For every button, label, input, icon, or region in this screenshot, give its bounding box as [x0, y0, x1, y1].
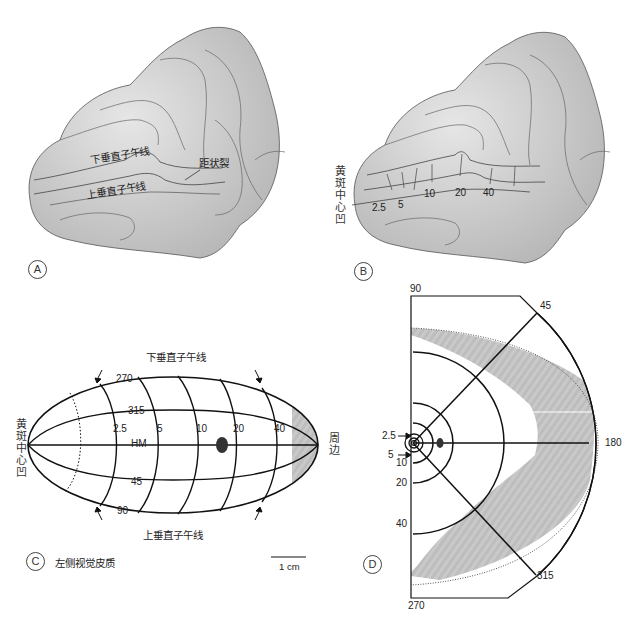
angle-label-315: 315 [537, 570, 554, 581]
title-lower-vertical-meridian: 下垂直子午线 [146, 349, 206, 364]
meridian-label-hm: HM [131, 438, 147, 449]
meridian-label-45: 45 [131, 476, 142, 487]
ecc-label-d-10: 10 [396, 457, 407, 468]
title-upper-vertical-meridian: 上垂直子午线 [143, 527, 203, 542]
ecc-label-c-2.5: 2.5 [113, 423, 127, 434]
brain-illustration-a [29, 27, 285, 258]
meridian-label-90: 90 [117, 505, 128, 516]
label-fovea-b: 黄斑中心凹 [331, 165, 347, 225]
visual-field-map-d [398, 296, 598, 598]
label-periphery: 周边 [325, 432, 341, 456]
ecc-label-d-40: 40 [396, 518, 407, 529]
ecc-label-c-5: 5 [157, 423, 163, 434]
ecc-label-d-5: 5 [388, 449, 394, 460]
angle-label-90: 90 [410, 283, 421, 294]
label-calcarine-fissure: 距状裂 [199, 155, 229, 170]
ecc-label-b-40: 40 [483, 187, 494, 198]
angle-label-45: 45 [540, 300, 551, 311]
scale-bar-label: 1 cm [279, 561, 300, 572]
ecc-label-c-10: 10 [196, 423, 207, 434]
ecc-label-b-2.5: 2.5 [372, 202, 386, 213]
label-fovea-c: 黄斑中心凹 [12, 418, 28, 478]
ecc-label-c-20: 20 [233, 423, 244, 434]
meridian-label-315: 315 [128, 405, 145, 416]
ecc-label-b-20: 20 [455, 187, 466, 198]
blind-spot [216, 437, 228, 453]
angle-label-270: 270 [408, 600, 425, 611]
ecc-label-b-10: 10 [424, 188, 435, 199]
meridian-label-270: 270 [116, 373, 133, 384]
panel-label-d: D [363, 555, 382, 574]
brain-illustration-b [352, 32, 610, 263]
figure-artwork [0, 0, 633, 624]
ecc-label-b-5: 5 [398, 199, 404, 210]
ecc-label-d-2.5: 2.5 [382, 430, 396, 441]
caption-left-visual-cortex: 左侧视觉皮质 [55, 555, 115, 570]
ecc-label-c-40: 40 [274, 423, 285, 434]
panel-label-c: C [26, 552, 45, 571]
panel-label-b: B [354, 262, 373, 281]
angle-label-180: 180 [605, 437, 622, 448]
blind-spot-d [437, 438, 444, 448]
panel-label-a: A [28, 260, 47, 279]
ecc-label-d-20: 20 [396, 477, 407, 488]
